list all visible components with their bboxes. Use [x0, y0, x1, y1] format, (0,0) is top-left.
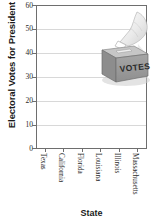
y-tick-label-30: 30 [15, 73, 33, 81]
y-tick-label-50: 50 [15, 25, 33, 33]
x-tickmark-texas [45, 149, 46, 152]
x-tick-label-texas: Texas [38, 153, 48, 209]
x-tick-label-florida: Florida [75, 153, 85, 209]
y-tick-label-0: 0 [15, 145, 33, 153]
gridline-10 [37, 125, 146, 126]
x-axis-title: State [36, 208, 147, 218]
gridline-30 [37, 77, 146, 78]
chart-container: Electoral Votes for President 60 50 40 3… [0, 0, 156, 223]
gridline-50 [37, 29, 146, 30]
x-tickmark-louisiana [100, 149, 101, 152]
gridline-40 [37, 53, 146, 54]
x-tickmark-massachusetts [137, 149, 138, 152]
y-tick-label-10: 10 [15, 121, 33, 129]
y-tick-label-60: 60 [15, 2, 33, 10]
x-tick-label-massachusetts: Massachusetts [130, 153, 140, 209]
y-axis-tick-labels: 60 50 40 30 20 10 0 [15, 0, 33, 223]
y-tick-label-40: 40 [15, 49, 33, 57]
gridline-20 [37, 101, 146, 102]
y-tick-label-20: 20 [15, 97, 33, 105]
x-tickmark-florida [82, 149, 83, 152]
x-tick-label-california: California [56, 153, 66, 209]
x-tickmark-california [63, 149, 64, 152]
x-tickmark-illinois [119, 149, 120, 152]
x-tick-label-illinois: Illinois [112, 153, 122, 209]
x-tick-label-louisiana: Louisiana [93, 153, 103, 209]
plot-area [36, 5, 147, 149]
